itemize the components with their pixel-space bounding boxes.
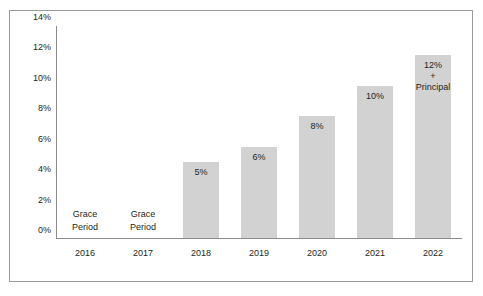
bar-value-label-2019: 6% <box>252 152 265 163</box>
y-axis-tick-6: 6% <box>38 134 51 143</box>
x-axis-tick-2021: 2021 <box>365 249 385 258</box>
y-axis-line <box>56 26 57 239</box>
plot-area: 0%2%4%6%8%10%12%14% 20162017201820192020… <box>56 26 462 239</box>
chart-frame: 0%2%4%6%8%10%12%14% 20162017201820192020… <box>9 10 473 282</box>
bar-value-label-2022: 12%+Principal <box>416 60 451 93</box>
y-axis-tick-8: 8% <box>38 104 51 113</box>
bar-2018[interactable]: 5% <box>183 162 219 238</box>
bar-2019[interactable]: 6% <box>241 147 277 238</box>
y-axis-tick-0: 0% <box>38 226 51 235</box>
grace-period-label-2016: GracePeriod <box>72 208 98 234</box>
x-axis-tick-2018: 2018 <box>191 249 211 258</box>
bar-value-label-2018: 5% <box>194 167 207 178</box>
y-axis-tick-10: 10% <box>33 73 51 82</box>
bar-value-label-2021: 10% <box>366 91 384 102</box>
y-axis-tick-12: 12% <box>33 43 51 52</box>
x-axis-tick-2019: 2019 <box>249 249 269 258</box>
y-axis-tick-4: 4% <box>38 165 51 174</box>
x-axis-tick-2020: 2020 <box>307 249 327 258</box>
x-axis-tick-2022: 2022 <box>423 249 443 258</box>
x-axis-tick-2017: 2017 <box>133 249 153 258</box>
bar-2021[interactable]: 10% <box>357 86 393 238</box>
bar-2020[interactable]: 8% <box>299 116 335 238</box>
bar-2022[interactable]: 12%+Principal <box>415 55 451 238</box>
y-axis-tick-14: 14% <box>33 13 51 22</box>
bar-value-label-2020: 8% <box>310 121 323 132</box>
grace-period-label-2017: GracePeriod <box>130 208 156 234</box>
y-axis-tick-2: 2% <box>38 195 51 204</box>
x-axis-tick-2016: 2016 <box>75 249 95 258</box>
x-axis-line <box>56 238 462 239</box>
